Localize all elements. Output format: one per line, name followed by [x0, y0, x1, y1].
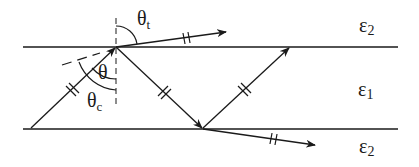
- epsilon-1-label: ε1: [358, 78, 373, 102]
- epsilon-2-bottom-label: ε2: [359, 135, 374, 159]
- theta-c-label: θc: [87, 89, 103, 114]
- theta-t-arc: [116, 26, 137, 44]
- ray-diagram: θt θ θc ε2 ε1 ε2: [0, 0, 419, 167]
- reflected-ray-up: [203, 48, 289, 128]
- reflected-ray-down: [116, 47, 202, 128]
- epsilon-2-top-label: ε2: [359, 14, 374, 38]
- incident-ray: [31, 48, 115, 128]
- transmitted-ray-bottom: [203, 129, 315, 145]
- theta-t-label: θt: [137, 7, 151, 32]
- critical-angle-dashed-line: [62, 53, 100, 65]
- theta-label: θ: [98, 61, 108, 83]
